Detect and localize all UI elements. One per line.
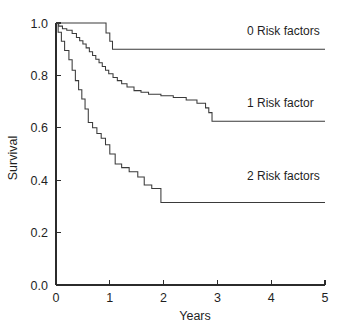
chart-canvas: 0.00.20.40.60.81.0 012345 Survival Years… xyxy=(0,0,337,328)
x-axis-tick-label: 5 xyxy=(322,291,329,305)
x-axis-tick-label: 4 xyxy=(268,291,275,305)
y-axis-tick-label: 0.8 xyxy=(31,69,48,83)
y-axis-tick-group xyxy=(56,23,61,285)
y-axis-tick-label: 0.2 xyxy=(31,226,48,240)
series-label: 2 Risk factors xyxy=(247,169,320,183)
x-axis-tick-label: 1 xyxy=(106,291,113,305)
series-label: 0 Risk factors xyxy=(247,24,320,38)
y-axis-tick-label: 0.6 xyxy=(31,121,48,135)
x-axis-tick-labels: 012345 xyxy=(53,291,329,305)
x-axis-tick-label: 0 xyxy=(53,291,60,305)
x-axis-title: Years xyxy=(179,309,211,323)
x-axis-tick-label: 3 xyxy=(214,291,221,305)
x-axis-tick-label: 2 xyxy=(160,291,167,305)
x-axis-tick-group xyxy=(56,280,325,285)
y-axis-tick-label: 0.0 xyxy=(31,279,48,293)
y-axis-tick-labels: 0.00.20.40.60.81.0 xyxy=(31,17,48,293)
survival-chart-figure: 0.00.20.40.60.81.0 012345 Survival Years… xyxy=(0,0,337,328)
y-axis-title: Survival xyxy=(6,136,20,180)
series-label-group: 0 Risk factors1 Risk factor2 Risk factor… xyxy=(247,24,320,183)
y-axis-tick-label: 0.4 xyxy=(31,174,48,188)
y-axis-tick-label: 1.0 xyxy=(31,17,48,31)
series-label: 1 Risk factor xyxy=(247,96,314,110)
